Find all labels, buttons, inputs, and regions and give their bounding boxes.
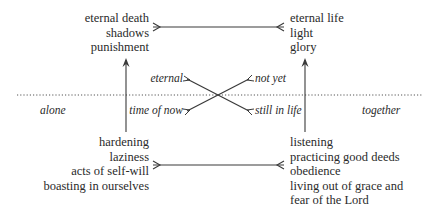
bottom-right-item: obedience [290, 164, 403, 179]
bottom-left-item: acts of self-will [43, 164, 149, 179]
top-right-item: light [290, 26, 344, 41]
cross-end-eternal-icon [183, 76, 190, 81]
cross-end-notyet-icon [247, 75, 254, 81]
bottom-right-item: listening [290, 135, 403, 150]
top-left-item: eternal death [85, 11, 149, 26]
top-left-block: eternal death shadows punishment [85, 11, 149, 55]
top-right-block: eternal life light glory [290, 11, 344, 55]
cross-label-not-yet: not yet [255, 72, 286, 85]
cross-end-timeofnow-icon [183, 109, 190, 115]
bottom-left-item: hardening [43, 135, 149, 150]
top-right-item: eternal life [290, 11, 344, 26]
bottom-right-item: practicing good deeds [290, 150, 403, 165]
bottom-right-block: listening practicing good deeds obedienc… [290, 135, 403, 208]
cross-end-stillinlife-icon [247, 109, 254, 115]
top-right-item: glory [290, 40, 344, 55]
bottom-left-block: hardening laziness acts of self-will boa… [43, 135, 149, 193]
cross-label-time-of-now: time of now [129, 104, 183, 117]
bottom-left-item: laziness [43, 150, 149, 165]
bottom-right-item: fear of the Lord [290, 193, 403, 208]
diagram-canvas: eternal death shadows punishment eternal… [0, 0, 439, 219]
side-label-together: together [362, 104, 400, 117]
bottom-left-item: boasting in ourselves [43, 179, 149, 194]
side-label-alone: alone [40, 104, 66, 117]
bottom-right-item: living out of grace and [290, 179, 403, 194]
top-left-item: punishment [85, 40, 149, 55]
cross-label-still-in-life: still in life [255, 104, 302, 117]
top-left-item: shadows [85, 26, 149, 41]
cross-label-eternal: eternal [150, 72, 183, 85]
